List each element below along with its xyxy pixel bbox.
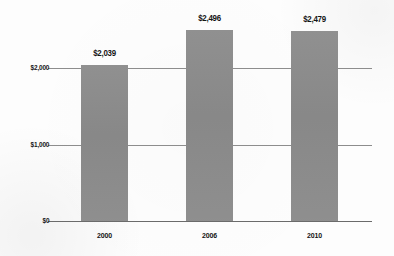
ytick-label-0: $0	[42, 217, 49, 224]
bar-2010	[291, 31, 338, 221]
ytick-label-1000: $1,000	[30, 141, 49, 148]
bar-2000	[81, 65, 128, 221]
xtick-label-2000: 2000	[83, 232, 127, 240]
bar-chart: $2,000 $1,000 $0 $2,039 $2,496 $2,479 20…	[0, 0, 394, 256]
ytick-label-2000: $2,000	[30, 64, 49, 71]
bar-value-2000: $2,039	[83, 49, 127, 58]
axis-baseline	[48, 221, 372, 222]
bar-value-2006: $2,496	[188, 14, 232, 23]
xtick-label-2010: 2010	[293, 232, 337, 240]
xtick-label-2006: 2006	[188, 232, 232, 240]
bar-value-2010: $2,479	[293, 15, 337, 24]
plot-area: $2,000 $1,000 $0 $2,039 $2,496 $2,479 20…	[0, 0, 394, 256]
bar-2006	[186, 30, 233, 221]
